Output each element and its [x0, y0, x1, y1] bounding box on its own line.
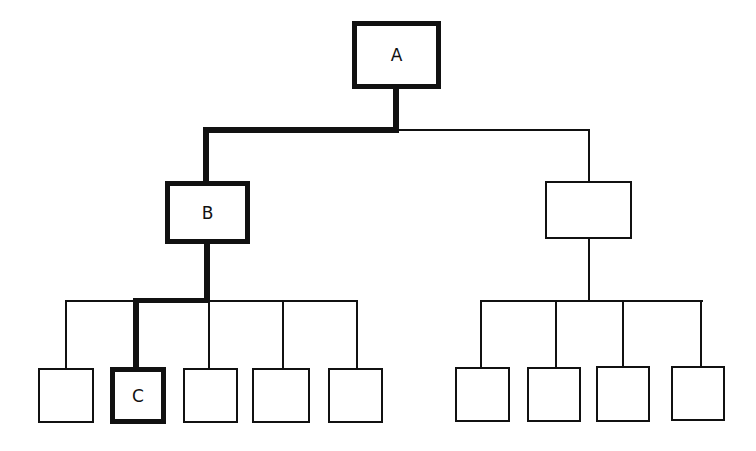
edge-c-drop: [133, 298, 139, 370]
edge-right-bus: [480, 300, 703, 302]
node-b: B: [165, 181, 250, 244]
edge-right-leaf-4-drop: [700, 300, 702, 367]
edge-left-leaf-4-drop: [282, 300, 284, 369]
node-right-leaf-4: [671, 366, 725, 421]
edge-right-leaf-2-drop: [555, 300, 557, 367]
edge-b-bus-left: [65, 300, 135, 302]
node-c-label: C: [132, 386, 144, 406]
node-right-mid: [545, 181, 632, 239]
node-b-label: B: [202, 203, 214, 223]
node-left-leaf-4: [252, 368, 310, 423]
node-a: A: [352, 21, 441, 89]
edge-b-drop: [203, 127, 209, 189]
node-right-leaf-3: [596, 366, 650, 422]
edge-right-mid-stem: [588, 238, 590, 302]
node-c: C: [110, 367, 166, 424]
edge-a-to-b-horizontal: [203, 127, 399, 133]
tree-diagram: A B C: [0, 0, 756, 451]
node-right-leaf-2: [527, 367, 581, 422]
node-a-label: A: [391, 45, 403, 65]
edge-right-mid-drop: [588, 129, 590, 183]
node-right-leaf-1: [455, 367, 510, 422]
edge-a-stem: [393, 88, 399, 132]
edge-left-leaf-5-drop: [356, 300, 358, 369]
node-left-leaf-5: [328, 368, 383, 423]
node-left-leaf-3: [183, 368, 238, 423]
edge-right-leaf-1-drop: [480, 300, 482, 368]
edge-a-to-right-horizontal: [397, 129, 590, 131]
edge-right-leaf-3-drop: [622, 300, 624, 367]
edge-left-leaf-1-drop: [65, 300, 67, 369]
edge-left-leaf-3-drop: [208, 300, 210, 369]
node-left-leaf-1: [38, 368, 94, 423]
edge-b-to-c-horizontal: [133, 298, 210, 303]
edge-b-stem: [204, 244, 210, 302]
